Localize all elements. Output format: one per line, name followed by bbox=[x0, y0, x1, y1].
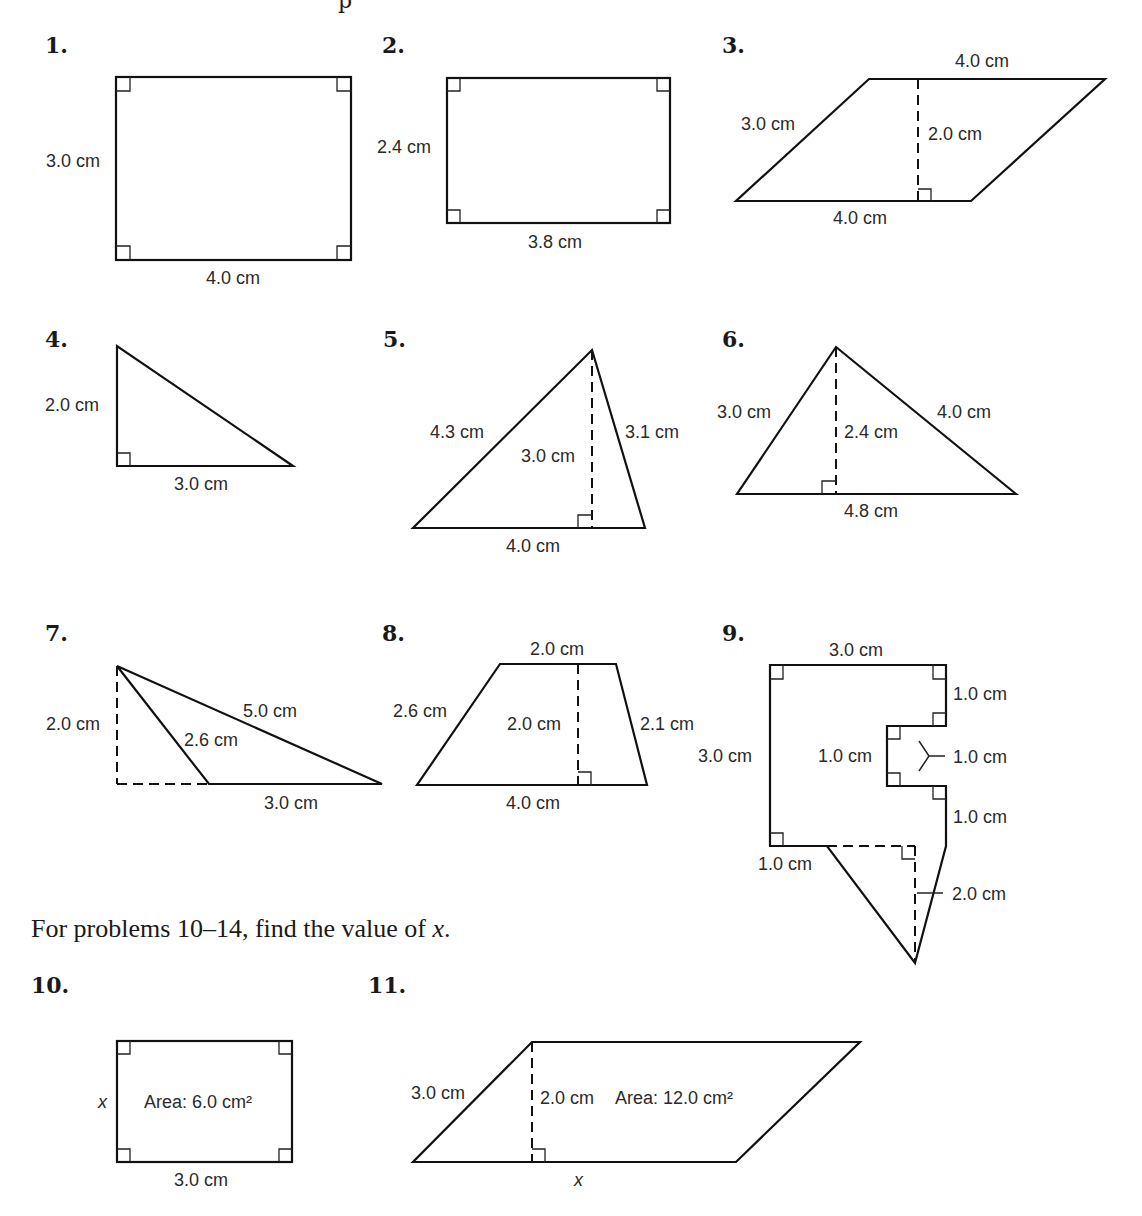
side-label-left: 3.0 cm bbox=[698, 746, 752, 766]
right-angle-marks bbox=[447, 78, 670, 223]
problem-number: 5. bbox=[383, 326, 406, 352]
obtuse-triangle-shape bbox=[117, 666, 382, 784]
problem-number: 2. bbox=[382, 32, 405, 58]
problem-7: 7. 2.0 cm 5.0 cm 2.6 cm 3.0 cm bbox=[45, 620, 382, 813]
area-label: Area: 6.0 cm² bbox=[144, 1092, 252, 1112]
problem-1: 1. 3.0 cm 4.0 cm bbox=[45, 32, 351, 288]
height-label: 3.0 cm bbox=[521, 446, 575, 466]
height-label: 2.0 cm bbox=[928, 124, 982, 144]
problem-3: 3. 4.0 cm 3.0 cm 2.0 cm 4.0 cm bbox=[722, 32, 1105, 228]
problem-5: 5. 4.3 cm 3.0 cm 3.1 cm 4.0 cm bbox=[383, 326, 679, 556]
problem-number: 4. bbox=[45, 326, 68, 352]
side-label-slant: 3.0 cm bbox=[741, 114, 795, 134]
notch-height-label: 1.0 cm bbox=[953, 747, 1007, 767]
side-label-left: 2.6 cm bbox=[393, 701, 447, 721]
height-label: 2.0 cm bbox=[540, 1088, 594, 1108]
side-label-left: 2.4 cm bbox=[377, 137, 431, 157]
worksheet-page: p 1. 3.0 cm 4.0 cm 2. 2.4 cm 3.8 cm 3. 4… bbox=[0, 0, 1142, 1216]
problem-2: 2. 2.4 cm 3.8 cm bbox=[377, 32, 670, 252]
side-label-bottom-left: 1.0 cm bbox=[758, 854, 812, 874]
side-label-right-upper: 1.0 cm bbox=[953, 684, 1007, 704]
geometry-figures: p 1. 3.0 cm 4.0 cm 2. 2.4 cm 3.8 cm 3. 4… bbox=[0, 0, 1142, 1216]
right-triangle-shape bbox=[117, 346, 293, 466]
area-label: Area: 12.0 cm² bbox=[615, 1088, 733, 1108]
side-label-left: 4.3 cm bbox=[430, 422, 484, 442]
triangle-height-label: 2.0 cm bbox=[952, 884, 1006, 904]
problem-8: 8. 2.0 cm 2.6 cm 2.0 cm 2.1 cm 4.0 cm bbox=[382, 620, 694, 813]
notch-width-label: 1.0 cm bbox=[818, 746, 872, 766]
side-label-long: 5.0 cm bbox=[243, 701, 297, 721]
parallelogram-shape bbox=[736, 79, 1105, 201]
notch-dimension-bracket bbox=[919, 741, 945, 771]
problem-number: 3. bbox=[722, 32, 745, 58]
right-angle-mark bbox=[117, 453, 130, 466]
side-label-bottom: 3.8 cm bbox=[528, 232, 582, 252]
problem-number: 11. bbox=[368, 972, 406, 998]
height-label: 2.0 cm bbox=[507, 714, 561, 734]
problem-number: 10. bbox=[31, 972, 69, 998]
problem-9: 9. 3.0 cm 1.0 cm 1.0 cm 1.0 cm 3.0 cm 1.… bbox=[698, 620, 1007, 963]
problem-10: 10. x Area: 6.0 cm² 3.0 cm bbox=[31, 972, 292, 1190]
side-label-bottom: 4.8 cm bbox=[844, 501, 898, 521]
side-label-bottom: 4.0 cm bbox=[506, 793, 560, 813]
side-label-bottom: 4.0 cm bbox=[506, 536, 560, 556]
right-angle-mark bbox=[918, 189, 931, 201]
right-angle-mark bbox=[532, 1149, 545, 1162]
side-label-short: 2.6 cm bbox=[184, 730, 238, 750]
right-angle-mark bbox=[578, 772, 591, 785]
side-label-bottom-x: x bbox=[573, 1170, 584, 1190]
side-label-bottom: 3.0 cm bbox=[174, 474, 228, 494]
side-label-right: 4.0 cm bbox=[937, 402, 991, 422]
problem-number: 1. bbox=[45, 32, 68, 58]
side-label-left: 3.0 cm bbox=[46, 151, 100, 171]
right-angle-mark bbox=[822, 481, 836, 494]
side-label-right-lower: 1.0 cm bbox=[953, 807, 1007, 827]
height-label: 2.4 cm bbox=[844, 422, 898, 442]
side-label-right: 2.1 cm bbox=[640, 714, 694, 734]
side-label-right: 3.1 cm bbox=[625, 422, 679, 442]
problem-number: 7. bbox=[45, 620, 68, 646]
side-label-bottom: 3.0 cm bbox=[264, 793, 318, 813]
header-fragment: p bbox=[338, 0, 352, 13]
problem-number: 9. bbox=[722, 620, 745, 646]
instruction-text: For problems 10–14, find the value of x. bbox=[31, 914, 451, 943]
side-label-bottom: 4.0 cm bbox=[206, 268, 260, 288]
problem-6: 6. 3.0 cm 2.4 cm 4.0 cm 4.8 cm bbox=[717, 326, 1016, 521]
problem-number: 8. bbox=[382, 620, 405, 646]
side-label-left-x: x bbox=[97, 1092, 108, 1112]
right-angle-marks bbox=[116, 77, 351, 260]
side-label-top: 2.0 cm bbox=[530, 639, 584, 659]
rectangle-shape bbox=[447, 78, 670, 223]
height-label: 2.0 cm bbox=[46, 714, 100, 734]
problem-number: 6. bbox=[722, 326, 745, 352]
side-label-slant: 3.0 cm bbox=[411, 1083, 465, 1103]
side-label-top: 4.0 cm bbox=[955, 51, 1009, 71]
side-label-left: 2.0 cm bbox=[45, 395, 99, 415]
side-label-top: 3.0 cm bbox=[829, 640, 883, 660]
right-angle-mark bbox=[578, 515, 592, 528]
problem-4: 4. 2.0 cm 3.0 cm bbox=[45, 326, 293, 494]
rectangle-shape bbox=[116, 77, 351, 260]
side-label-bottom: 3.0 cm bbox=[174, 1170, 228, 1190]
side-label-bottom: 4.0 cm bbox=[833, 208, 887, 228]
side-label-left: 3.0 cm bbox=[717, 402, 771, 422]
composite-shape bbox=[770, 665, 946, 963]
problem-11: 11. 3.0 cm 2.0 cm Area: 12.0 cm² x bbox=[368, 972, 860, 1190]
